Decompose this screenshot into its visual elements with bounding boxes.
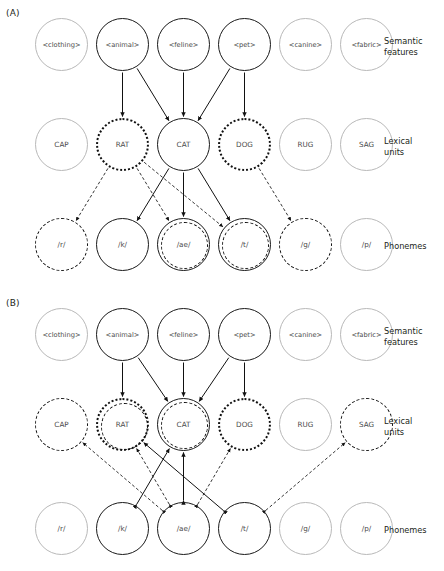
edge-arrow (138, 358, 168, 402)
node-phoneme-t[interactable]: /t/ (218, 502, 271, 555)
node-phoneme-g[interactable]: /g/ (279, 502, 332, 555)
node-phoneme-k[interactable]: /k/ (96, 502, 149, 555)
node-label: <canine> (289, 331, 322, 339)
row-label-line2: features (384, 336, 422, 347)
node-pet[interactable]: <pet> (218, 18, 271, 71)
node-cat[interactable]: CAT (157, 398, 210, 451)
node-cap[interactable]: CAP (35, 118, 88, 171)
node-label: RAT (116, 140, 129, 149)
panel-b: (B) <clothing> <animal> <feline> <pet> <… (0, 290, 444, 571)
row-label-line1: Lexical (384, 136, 412, 147)
panel-a-row-phonemes: /r/ /k/ /ae/ /t/ /g/ /p/ Phonemes (0, 218, 444, 274)
node-feline[interactable]: <feline> (157, 308, 210, 361)
row-label-line1: Phonemes (384, 241, 427, 252)
node-label: /t/ (241, 524, 249, 533)
edge-bidirectional (198, 449, 231, 505)
node-label: <canine> (289, 41, 322, 49)
node-clothing[interactable]: <clothing> (35, 18, 88, 71)
node-label: CAT (177, 140, 191, 149)
node-label: CAP (54, 140, 68, 149)
node-label: /r/ (58, 524, 66, 533)
node-label: <pet> (233, 331, 255, 339)
edge-arrow (76, 168, 108, 220)
node-label: <animal> (106, 331, 140, 339)
panel-a-row-lexical: CAP RAT CAT DOG RUG SAG Lexical units (0, 118, 444, 174)
node-label: /t/ (241, 240, 249, 249)
node-phoneme-g[interactable]: /g/ (279, 218, 332, 271)
node-phoneme-ae[interactable]: /ae/ (157, 218, 210, 271)
panel-a: (A) <clothing> <animal> <feline> <pet> <… (0, 0, 444, 290)
node-label: <clothing> (42, 331, 80, 339)
node-animal[interactable]: <animal> (96, 308, 149, 361)
node-rug[interactable]: RUG (279, 118, 332, 171)
row-label-semantic-features: Semantic features (384, 326, 422, 347)
node-phoneme-r[interactable]: /r/ (35, 502, 88, 555)
node-feline[interactable]: <feline> (157, 18, 210, 71)
node-label: /k/ (118, 524, 127, 533)
node-label: /ae/ (177, 240, 191, 249)
node-label: DOG (236, 420, 253, 429)
node-dog[interactable]: DOG (218, 398, 271, 451)
node-label: <feline> (169, 331, 199, 339)
node-cat[interactable]: CAT (157, 118, 210, 171)
edge-arrow (137, 68, 169, 120)
node-label: <pet> (233, 41, 255, 49)
node-rug[interactable]: RUG (279, 398, 332, 451)
node-label: /p/ (362, 524, 371, 533)
node-canine[interactable]: <canine> (279, 308, 332, 361)
node-label: <feline> (169, 41, 199, 49)
row-label-lexical-units: Lexical units (384, 136, 412, 157)
row-label-phonemes: Phonemes (384, 241, 427, 252)
node-rat[interactable]: RAT (96, 118, 149, 171)
edge-arrow (199, 358, 229, 402)
row-label-line2: units (384, 146, 412, 157)
row-label-lexical-units: Lexical units (384, 416, 412, 437)
node-pet[interactable]: <pet> (218, 308, 271, 361)
row-label-line1: Semantic (384, 326, 422, 337)
figure-root: (A) <clothing> <animal> <feline> <pet> <… (0, 0, 444, 571)
node-label: RAT (116, 420, 129, 429)
panel-b-row-semantic: <clothing> <animal> <feline> <pet> <cani… (0, 308, 444, 364)
edge-arrow (137, 168, 169, 220)
node-canine[interactable]: <canine> (279, 18, 332, 71)
node-label: RUG (298, 140, 314, 149)
node-rat[interactable]: RAT (96, 398, 149, 451)
node-cap[interactable]: CAP (35, 398, 88, 451)
edge-arrow (198, 68, 230, 120)
node-label: /ae/ (177, 524, 191, 533)
node-label: <clothing> (42, 41, 80, 49)
row-label-phonemes: Phonemes (384, 525, 427, 536)
node-label: CAT (177, 420, 191, 429)
node-label: /r/ (58, 240, 66, 249)
row-label-semantic-features: Semantic features (384, 36, 422, 57)
panel-b-row-lexical: CAP RAT CAT DOG RUG SAG Lexical units (0, 398, 444, 454)
node-clothing[interactable]: <clothing> (35, 308, 88, 361)
node-label: SAG (359, 420, 374, 429)
row-label-line1: Lexical (384, 416, 412, 427)
node-dog[interactable]: DOG (218, 118, 271, 171)
node-label: /p/ (362, 240, 371, 249)
node-label: DOG (236, 140, 253, 149)
node-label: CAP (54, 420, 68, 429)
node-label: RUG (298, 420, 314, 429)
node-phoneme-r[interactable]: /r/ (35, 218, 88, 271)
edge-arrow (259, 168, 291, 220)
node-label: /g/ (301, 240, 310, 249)
edge-arrow (198, 168, 230, 220)
panel-a-row-semantic: <clothing> <animal> <feline> <pet> <cani… (0, 18, 444, 74)
node-label: /g/ (301, 524, 310, 533)
node-label: /k/ (118, 240, 127, 249)
node-label: <fabric> (351, 41, 381, 49)
node-label: <fabric> (351, 331, 381, 339)
row-label-line2: units (384, 426, 412, 437)
row-label-line2: features (384, 46, 422, 57)
row-label-line1: Semantic (384, 36, 422, 47)
node-label: <animal> (106, 41, 140, 49)
node-label: SAG (359, 140, 374, 149)
node-phoneme-ae[interactable]: /ae/ (157, 502, 210, 555)
panel-b-row-phonemes: /r/ /k/ /ae/ /t/ /g/ /p/ Phonemes (0, 502, 444, 558)
node-animal[interactable]: <animal> (96, 18, 149, 71)
node-phoneme-k[interactable]: /k/ (96, 218, 149, 271)
node-phoneme-t[interactable]: /t/ (218, 218, 271, 271)
row-label-line1: Phonemes (384, 525, 427, 536)
